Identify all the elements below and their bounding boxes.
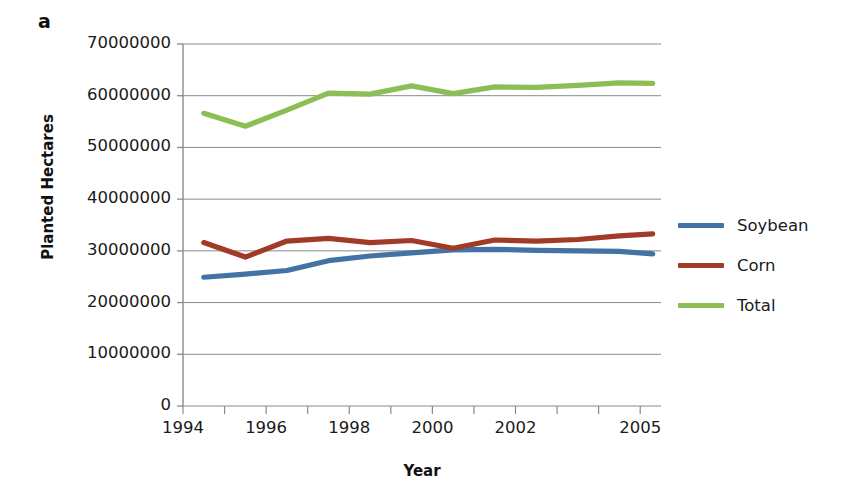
legend-item-soybean[interactable]: Soybean	[678, 205, 853, 245]
series-lines	[204, 83, 653, 277]
series-line-total	[204, 83, 653, 126]
legend-label: Soybean	[737, 216, 809, 235]
legend-swatch-icon	[678, 263, 724, 268]
legend-label: Total	[737, 296, 776, 315]
legend-label: Corn	[737, 256, 776, 275]
y-axis-ticks	[177, 44, 183, 406]
x-axis-ticks	[183, 406, 640, 414]
legend-item-total[interactable]: Total	[678, 285, 853, 325]
legend-swatch-icon	[678, 303, 724, 308]
legend-item-corn[interactable]: Corn	[678, 245, 853, 285]
chart-figure: a Planted Hectares Year 7000000060000000…	[0, 0, 859, 495]
series-line-soybean	[204, 249, 653, 277]
gridlines	[183, 44, 661, 406]
legend-swatch-icon	[678, 223, 724, 228]
legend: SoybeanCornTotal	[678, 205, 853, 325]
